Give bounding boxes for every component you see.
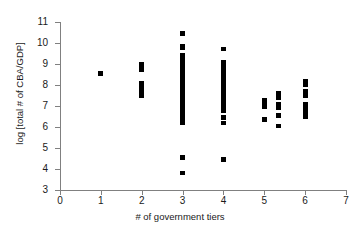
data-point [276, 124, 281, 128]
y-tick-mark [55, 106, 60, 107]
scatter-chart: 34567891011 01234567 # of government tie… [0, 0, 360, 235]
y-tick-mark [55, 169, 60, 170]
x-tick-label: 3 [173, 195, 193, 206]
x-axis-line [60, 190, 347, 191]
y-axis-line [60, 22, 61, 190]
data-point [303, 93, 308, 97]
data-point [180, 46, 185, 50]
data-point [221, 157, 226, 161]
data-point [180, 121, 185, 125]
data-point [262, 117, 267, 121]
y-tick-mark [55, 64, 60, 65]
data-point [221, 121, 226, 125]
x-tick-label: 4 [213, 195, 233, 206]
data-point [139, 68, 144, 72]
y-tick-mark [55, 43, 60, 44]
x-tick-label: 5 [254, 195, 274, 206]
x-axis-label: # of government tiers [0, 211, 360, 222]
data-point [221, 109, 226, 113]
data-point [139, 93, 144, 97]
data-point [276, 113, 281, 117]
data-point [180, 155, 185, 159]
y-tick-mark [55, 127, 60, 128]
data-point [262, 105, 267, 109]
y-tick-mark [55, 148, 60, 149]
data-point [221, 47, 226, 51]
y-tick-mark [55, 22, 60, 23]
x-tick-label: 1 [91, 195, 111, 206]
data-point [276, 106, 281, 110]
data-point [98, 71, 103, 75]
y-axis-label: log [total # of CBA/GDP] [14, 9, 25, 179]
x-tick-label: 0 [50, 195, 70, 206]
data-point [303, 114, 308, 118]
x-tick-label: 2 [132, 195, 152, 206]
data-point [276, 95, 281, 99]
data-point [180, 31, 185, 35]
x-tick-label: 7 [336, 195, 356, 206]
y-tick-label: 3 [20, 185, 48, 195]
x-tick-label: 6 [295, 195, 315, 206]
data-point [180, 112, 185, 116]
data-point [303, 83, 308, 87]
data-point [221, 115, 226, 119]
data-point [180, 171, 185, 175]
y-tick-mark [55, 85, 60, 86]
